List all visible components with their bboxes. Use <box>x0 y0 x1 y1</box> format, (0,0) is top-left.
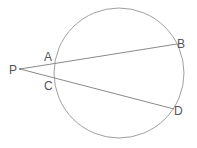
label-b: B <box>177 37 185 51</box>
label-a: A <box>44 50 52 64</box>
label-d: D <box>174 104 183 118</box>
secant-diagram: P A B C D <box>0 0 197 148</box>
label-p: P <box>9 63 17 77</box>
circle <box>54 8 184 138</box>
point-p-marker <box>19 68 21 70</box>
label-c: C <box>44 79 53 93</box>
